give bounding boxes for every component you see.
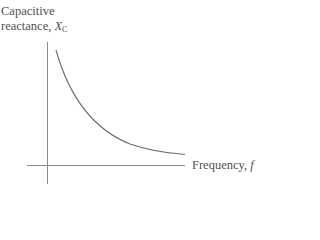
x-axis-label: Frequency, f: [192, 158, 254, 173]
x-axis-symbol: f: [250, 158, 253, 172]
reactance-curve: [56, 50, 185, 155]
